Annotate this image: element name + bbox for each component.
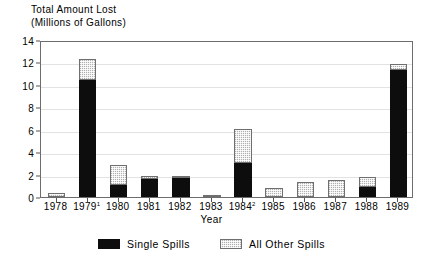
x-axis-tick-label: 1985 [261,201,284,212]
bar-group [265,188,282,197]
legend-item: All Other Spills [220,238,325,250]
x-axis-tick-label: 1980 [106,201,129,212]
y-axis-tick-label: 6 [8,125,34,136]
x-axis-tick-mark [273,198,274,202]
legend-item-label: Single Spills [127,238,190,250]
y-axis-tick-label: 14 [8,36,34,47]
bar-segment-all-other-spills [297,182,314,197]
hatched-gray-swatch [220,239,242,249]
bar-group [390,64,407,197]
x-axis-footnote-marker: 2 [252,201,255,207]
y-axis-tick-label: 8 [8,103,34,114]
y-axis-tick-mark [36,198,40,199]
x-axis-tick-mark [180,198,181,202]
bar-group [328,180,345,197]
x-axis-tick-label: 1986 [292,201,315,212]
bar-chart: Total Amount Lost (Millions of Gallons) … [0,0,423,259]
bar-group [110,165,127,198]
bar-group [48,193,65,197]
plot-area [40,41,413,198]
bar-group [79,59,96,197]
x-axis-tick-mark [304,198,305,202]
bar-segment-single-spills [359,187,376,197]
bar-segment-all-other-spills [110,165,127,185]
bar-group [141,176,158,197]
bar-segment-all-other-spills [265,188,282,197]
x-axis-tick-label: 1989 [386,201,409,212]
y-axis-tick-label: 0 [8,193,34,204]
chart-title-line1: Total Amount Lost [31,4,126,17]
x-axis-tick-mark [87,198,88,202]
x-axis-tick-mark [118,198,119,202]
y-axis-tick-label: 4 [8,148,34,159]
x-axis-title: Year [0,214,423,225]
bar-segment-all-other-spills [359,177,376,187]
bar-segment-single-spills [110,185,127,197]
bar-segment-all-other-spills [328,180,345,197]
bar-segment-all-other-spills [390,64,407,71]
bar-segment-single-spills [234,163,251,197]
y-axis-tick-label: 2 [8,170,34,181]
bar-group [203,195,220,197]
x-axis-tick-label: 1983 [199,201,222,212]
x-axis-footnote-marker: 1 [97,201,100,207]
legend-item: Single Spills [98,238,190,250]
bar-group [234,129,251,197]
x-axis-tick-label: 1988 [355,201,378,212]
x-axis-tick-mark [366,198,367,202]
y-axis-tick-mark [36,41,40,42]
chart-legend: Single SpillsAll Other Spills [0,238,423,250]
bar-segment-all-other-spills [234,129,251,164]
x-axis-tick-label: 1982 [168,201,191,212]
y-axis-tick-mark [36,153,40,154]
y-axis-tick-mark [36,175,40,176]
bars-layer [41,42,412,197]
y-axis-tick-label: 10 [8,80,34,91]
bar-group [172,176,189,197]
chart-title-line2: (Millions of Gallons) [31,17,126,30]
solid-black-swatch [98,239,120,249]
x-axis-tick-mark [335,198,336,202]
y-axis-tick-label: 12 [8,58,34,69]
x-axis-tick-label: 19842 [229,201,256,212]
bar-segment-all-other-spills [203,195,220,197]
x-axis-tick-mark [56,198,57,202]
x-axis-tick-label: 1987 [324,201,347,212]
x-axis-tick-mark [242,198,243,202]
x-axis-tick-mark [397,198,398,202]
y-axis-tick-mark [36,63,40,64]
x-axis-tick-label: 1978 [44,201,67,212]
x-axis-tick-label: 1981 [137,201,160,212]
legend-item-label: All Other Spills [249,238,325,250]
chart-title: Total Amount Lost (Millions of Gallons) [31,4,126,29]
x-axis-tick-label: 19791 [73,201,100,212]
bar-group [359,177,376,197]
bar-group [297,182,314,197]
y-axis-tick-mark [36,108,40,109]
x-axis-tick-mark [149,198,150,202]
bar-segment-single-spills [141,179,158,197]
y-axis-tick-mark [36,130,40,131]
y-axis-tick-mark [36,85,40,86]
bar-segment-all-other-spills [48,193,65,197]
bar-segment-single-spills [79,80,96,197]
x-axis-tick-mark [211,198,212,202]
bar-segment-single-spills [172,178,189,197]
bar-segment-single-spills [390,70,407,197]
bar-segment-all-other-spills [79,59,96,80]
